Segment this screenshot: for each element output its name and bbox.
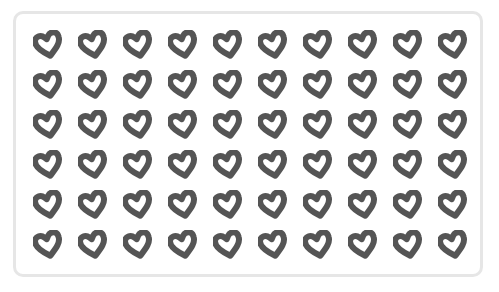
heart-outline-icon [33, 150, 63, 180]
heart-outline-icon [303, 70, 333, 100]
heart-outline-icon [348, 150, 378, 180]
heart-outline-icon [33, 190, 63, 220]
heart-outline-icon [303, 30, 333, 60]
heart-outline-icon [78, 110, 108, 140]
heart-outline-icon [123, 230, 153, 260]
heart-outline-icon [438, 150, 468, 180]
heart-outline-icon [303, 190, 333, 220]
heart-outline-icon [78, 230, 108, 260]
heart-outline-icon [123, 150, 153, 180]
heart-outline-icon [258, 110, 288, 140]
heart-outline-icon [438, 110, 468, 140]
heart-outline-icon [168, 190, 198, 220]
heart-outline-icon [168, 150, 198, 180]
heart-outline-icon [33, 70, 63, 100]
heart-outline-icon [438, 70, 468, 100]
heart-outline-icon [258, 190, 288, 220]
heart-outline-icon [33, 30, 63, 60]
heart-outline-icon [168, 110, 198, 140]
heart-outline-icon [213, 110, 243, 140]
heart-outline-icon [78, 70, 108, 100]
heart-outline-icon [123, 30, 153, 60]
heart-grid [0, 0, 499, 292]
heart-outline-icon [213, 230, 243, 260]
heart-outline-icon [258, 70, 288, 100]
heart-outline-icon [438, 190, 468, 220]
heart-outline-icon [78, 150, 108, 180]
heart-outline-icon [393, 190, 423, 220]
heart-outline-icon [303, 150, 333, 180]
heart-outline-icon [348, 70, 378, 100]
heart-outline-icon [168, 30, 198, 60]
heart-outline-icon [213, 30, 243, 60]
heart-outline-icon [213, 70, 243, 100]
heart-outline-icon [33, 110, 63, 140]
heart-outline-icon [258, 230, 288, 260]
heart-outline-icon [438, 230, 468, 260]
heart-outline-icon [393, 110, 423, 140]
heart-outline-icon [78, 190, 108, 220]
heart-outline-icon [258, 150, 288, 180]
heart-outline-icon [123, 110, 153, 140]
heart-outline-icon [438, 30, 468, 60]
heart-outline-icon [348, 110, 378, 140]
heart-outline-icon [213, 190, 243, 220]
heart-outline-icon [303, 230, 333, 260]
heart-outline-icon [213, 150, 243, 180]
heart-outline-icon [393, 230, 423, 260]
heart-outline-icon [123, 190, 153, 220]
heart-outline-icon [393, 30, 423, 60]
heart-outline-icon [348, 230, 378, 260]
heart-outline-icon [33, 230, 63, 260]
heart-outline-icon [123, 70, 153, 100]
heart-outline-icon [393, 70, 423, 100]
heart-outline-icon [168, 70, 198, 100]
heart-outline-icon [348, 30, 378, 60]
heart-outline-icon [258, 30, 288, 60]
heart-outline-icon [168, 230, 198, 260]
heart-outline-icon [303, 110, 333, 140]
heart-outline-icon [78, 30, 108, 60]
heart-outline-icon [393, 150, 423, 180]
heart-outline-icon [348, 190, 378, 220]
